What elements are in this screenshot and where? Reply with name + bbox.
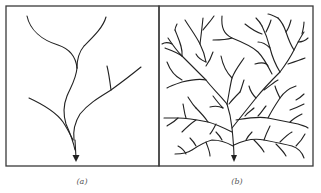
panel-b-label: (b) <box>222 177 252 186</box>
panel-a-network <box>27 16 141 162</box>
panel-a-frame <box>6 6 159 166</box>
figure-canvas <box>0 0 321 193</box>
panel-b-network <box>162 14 308 162</box>
panel-b-frame <box>159 6 313 166</box>
outlet-arrow-a <box>73 155 80 162</box>
drainage-network-figure: (a) (b) <box>0 0 321 193</box>
outlet-arrow-b <box>231 155 237 162</box>
panel-a-label: (a) <box>67 177 97 186</box>
